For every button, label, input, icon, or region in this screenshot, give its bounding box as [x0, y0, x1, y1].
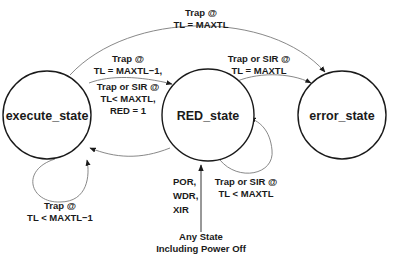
svg-text:TL< MAXTL,: TL< MAXTL,	[100, 93, 155, 104]
svg-text:TL < MAXTL: TL < MAXTL	[219, 188, 274, 199]
label-reset: POR, WDR, XIR	[173, 176, 198, 215]
label-any-state: Any State Including Power Off	[156, 231, 247, 254]
state-execute: execute_state	[3, 71, 91, 159]
svg-text:Trap or SIR @: Trap or SIR @	[228, 53, 291, 64]
label-execute-to-red: Trap @ TL = MAXTL−1, Trap or SIR @ TL< M…	[94, 53, 162, 116]
label-execute-to-error: Trap @ TL = MAXTL	[174, 7, 229, 30]
state-label-red: RED_state	[177, 109, 240, 123]
svg-text:TL = MAXTL: TL = MAXTL	[174, 19, 229, 30]
label-execute-self-loop: Trap @ TL < MAXTL−1	[27, 200, 94, 223]
edge-red-to-execute	[90, 148, 170, 156]
svg-text:TL < MAXTL−1: TL < MAXTL−1	[27, 212, 94, 223]
svg-text:Trap or SIR @: Trap or SIR @	[215, 176, 278, 187]
svg-text:POR,: POR,	[173, 176, 196, 187]
svg-text:TL = MAXTL−1,: TL = MAXTL−1,	[94, 65, 162, 76]
svg-text:TL = MAXTL: TL = MAXTL	[232, 65, 287, 76]
state-error: error_state	[298, 71, 386, 159]
svg-text:Trap @: Trap @	[44, 200, 76, 211]
label-red-to-error: Trap or SIR @ TL = MAXTL	[228, 53, 291, 76]
svg-text:Trap @: Trap @	[185, 7, 217, 18]
label-red-self-loop: Trap or SIR @ TL < MAXTL	[215, 176, 278, 199]
svg-text:Trap @: Trap @	[112, 53, 144, 64]
svg-text:Any State: Any State	[179, 231, 223, 242]
svg-text:Including Power Off: Including Power Off	[156, 243, 247, 254]
svg-text:XIR: XIR	[173, 204, 189, 215]
state-red: RED_state	[162, 69, 254, 161]
svg-text:Trap or SIR @: Trap or SIR @	[97, 81, 160, 92]
state-label-error: error_state	[309, 109, 374, 123]
edge-execute-self-loop	[33, 159, 88, 202]
state-diagram: execute_state RED_state error_state Trap…	[0, 0, 399, 265]
svg-text:RED = 1: RED = 1	[110, 105, 147, 116]
svg-text:WDR,: WDR,	[173, 190, 198, 201]
state-label-execute: execute_state	[6, 109, 89, 123]
